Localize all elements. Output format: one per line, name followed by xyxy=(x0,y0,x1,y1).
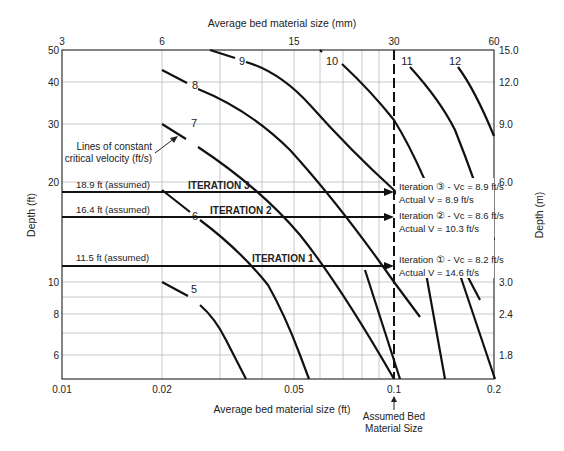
svg-text:8: 8 xyxy=(53,309,59,320)
y-ticks: 50 40 30 20 10 8 6 xyxy=(48,45,60,361)
svg-text:0.01: 0.01 xyxy=(52,384,72,395)
label-16-4: 16.4 ft (assumed) xyxy=(76,204,150,215)
svg-text:15.0: 15.0 xyxy=(499,45,519,56)
svg-text:9.0: 9.0 xyxy=(499,119,513,130)
legend-note: Lines of constant critical velocity (ft/… xyxy=(65,141,152,164)
y-axis-title: Depth (ft) xyxy=(25,193,37,237)
svg-text:1.8: 1.8 xyxy=(499,350,513,361)
curve-label-6: 6 xyxy=(192,210,198,222)
svg-text:40: 40 xyxy=(48,77,60,88)
x2-axis-title: Average bed material size (mm) xyxy=(208,17,357,29)
assumed-label: Assumed Bed Material Size xyxy=(363,411,425,434)
iteration-3-label: ITERATION 3 xyxy=(188,180,250,191)
svg-text:Actual V = 8.9 ft/s: Actual V = 8.9 ft/s xyxy=(399,194,474,205)
chart: 7 5 6 8 9 10 11 12 18.9 ft (assumed) 16.… xyxy=(0,0,564,451)
svg-text:12.0: 12.0 xyxy=(499,77,519,88)
svg-text:6.0: 6.0 xyxy=(499,177,513,188)
curve-label-8: 8 xyxy=(192,79,198,91)
label-11-5: 11.5 ft (assumed) xyxy=(76,252,149,263)
svg-text:Iteration ③ - Vc = 8.9 ft/s: Iteration ③ - Vc = 8.9 ft/s xyxy=(399,181,504,192)
curve-label-10: 10 xyxy=(326,55,338,67)
svg-text:2.4: 2.4 xyxy=(499,309,513,320)
curve-6 xyxy=(162,190,309,379)
svg-text:20: 20 xyxy=(48,177,60,188)
y2-ticks: 15.0 12.0 9.0 6.0 3.0 2.4 1.8 xyxy=(499,45,519,361)
svg-text:Iteration ① - Vc = 8.2 ft/s: Iteration ① - Vc = 8.2 ft/s xyxy=(399,254,504,265)
curve-12 xyxy=(458,67,494,136)
curve-label-9: 9 xyxy=(239,55,245,67)
curve-label-12: 12 xyxy=(449,55,461,67)
svg-text:0.2: 0.2 xyxy=(487,384,501,395)
x2-ticks: 3 6 15 30 60 xyxy=(59,36,500,47)
svg-text:3.0: 3.0 xyxy=(499,277,513,288)
legend-arrowhead xyxy=(170,136,178,143)
svg-text:0.02: 0.02 xyxy=(152,384,172,395)
iteration-1-label: ITERATION 1 xyxy=(252,253,314,264)
curve-label-5: 5 xyxy=(191,283,197,295)
svg-text:critical velocity (ft/s): critical velocity (ft/s) xyxy=(65,153,152,164)
curve-label-11: 11 xyxy=(401,55,412,67)
svg-text:0.1: 0.1 xyxy=(387,384,401,395)
x-ticks: 0.01 0.02 0.05 0.1 0.2 xyxy=(52,384,501,395)
iteration-2-label: ITERATION 2 xyxy=(210,205,272,216)
svg-text:3: 3 xyxy=(59,36,65,47)
svg-text:6: 6 xyxy=(159,36,165,47)
svg-text:6: 6 xyxy=(53,350,59,361)
curve-7 xyxy=(162,124,394,379)
svg-text:15: 15 xyxy=(288,36,300,47)
curve-8 xyxy=(162,70,420,317)
svg-text:50: 50 xyxy=(48,45,60,56)
y2-axis-title: Depth (m) xyxy=(533,192,545,239)
assumed-arrowhead xyxy=(391,396,397,402)
svg-text:Iteration ② - Vc = 8.6 ft/s: Iteration ② - Vc = 8.6 ft/s xyxy=(399,210,504,221)
svg-text:0.05: 0.05 xyxy=(284,384,304,395)
svg-text:Actual V = 10.3 ft/s: Actual V = 10.3 ft/s xyxy=(399,223,479,234)
svg-text:30: 30 xyxy=(388,36,400,47)
label-18-9: 18.9 ft (assumed) xyxy=(76,179,150,190)
curve-label-7: 7 xyxy=(191,117,197,129)
svg-text:Lines of constant: Lines of constant xyxy=(76,141,152,152)
curve-5 xyxy=(162,282,246,379)
svg-text:Material Size: Material Size xyxy=(365,423,423,434)
arrowheads xyxy=(384,188,394,270)
svg-text:Assumed Bed: Assumed Bed xyxy=(363,411,425,422)
svg-text:30: 30 xyxy=(48,119,60,130)
svg-text:Actual V = 14.6 ft/s: Actual V = 14.6 ft/s xyxy=(399,267,479,278)
x-axis-title: Average bed material size (ft) xyxy=(214,403,351,415)
svg-text:10: 10 xyxy=(48,277,60,288)
